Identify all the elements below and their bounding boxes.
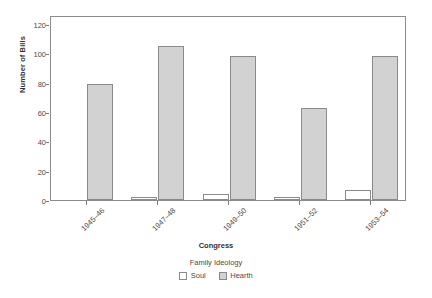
y-tick-mark <box>46 142 49 143</box>
legend: Family Ideology SoulHearth <box>0 258 432 280</box>
bar-hearth-1951–52 <box>301 108 327 201</box>
x-tick-label: 1949–50 <box>221 206 248 233</box>
y-tick-mark <box>46 172 49 173</box>
x-tick-mark <box>228 201 229 205</box>
legend-label-soul: Soul <box>191 271 206 280</box>
plot-area <box>50 16 406 201</box>
x-tick-label: 1947–48 <box>150 206 177 233</box>
legend-swatch-soul <box>179 272 187 280</box>
y-tick-label: 60 <box>24 108 46 117</box>
bar-soul-1953–54 <box>345 190 371 200</box>
chart-figure: Number of Bills 020406080100120 1945–461… <box>0 0 432 298</box>
bar-soul-1947–48 <box>131 197 157 200</box>
x-tick-mark <box>86 201 87 205</box>
x-tick-label: 1945–46 <box>79 206 106 233</box>
y-tick-mark <box>46 84 49 85</box>
legend-title: Family Ideology <box>0 258 432 267</box>
y-tick-label: 20 <box>24 167 46 176</box>
legend-items: SoulHearth <box>0 271 432 280</box>
x-axis-title: Congress <box>0 241 432 250</box>
y-tick-mark <box>46 201 49 202</box>
legend-entry-hearth: Hearth <box>219 271 253 280</box>
y-axis-tick-labels: 020406080100120 <box>22 0 46 298</box>
legend-swatch-hearth <box>219 272 227 280</box>
bar-soul-1949–50 <box>203 194 229 200</box>
bar-hearth-1947–48 <box>158 46 184 200</box>
y-tick-label: 120 <box>24 20 46 29</box>
x-tick-mark <box>299 201 300 205</box>
bar-hearth-1953–54 <box>372 56 398 200</box>
x-axis-tick-labels: 1945–461947–481949–501951–521953–54 <box>50 206 406 240</box>
y-tick-mark <box>46 113 49 114</box>
bar-hearth-1945–46 <box>87 84 113 200</box>
y-tick-label: 0 <box>24 197 46 206</box>
legend-label-hearth: Hearth <box>230 271 253 280</box>
y-tick-mark <box>46 25 49 26</box>
bar-soul-1951–52 <box>274 197 300 200</box>
y-tick-label: 40 <box>24 138 46 147</box>
legend-entry-soul: Soul <box>179 271 206 280</box>
x-tick-label: 1951–52 <box>293 206 320 233</box>
x-tick-label: 1953–54 <box>364 206 391 233</box>
x-tick-mark <box>370 201 371 205</box>
bar-hearth-1949–50 <box>230 56 256 200</box>
y-tick-mark <box>46 54 49 55</box>
x-tick-mark <box>157 201 158 205</box>
bars-layer <box>51 17 405 200</box>
y-tick-label: 100 <box>24 50 46 59</box>
y-tick-label: 80 <box>24 79 46 88</box>
